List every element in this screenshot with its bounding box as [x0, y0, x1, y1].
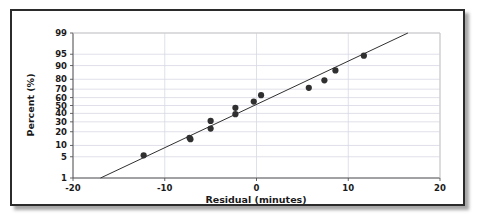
y-axis-tick-label: 95: [55, 49, 67, 59]
data-point: [251, 98, 257, 104]
normal-probability-plot: 151020304050607080909599 -20-1001020 Res…: [0, 0, 484, 224]
data-point: [332, 67, 338, 73]
data-point: [258, 92, 264, 98]
data-point: [361, 53, 367, 59]
x-axis-tick-labels: -20-1001020: [65, 183, 446, 193]
y-axis-tick-label: 70: [55, 84, 67, 94]
y-axis-tick-label: 10: [55, 140, 67, 150]
y-axis-tick-label: 20: [55, 127, 67, 137]
x-axis-tick-label: 20: [434, 183, 446, 193]
y-axis-tick-label: 80: [55, 74, 67, 84]
x-axis-tick-label: -10: [157, 183, 172, 193]
x-axis-tick-label: -20: [65, 183, 80, 193]
x-axis-tick-label: 10: [342, 183, 354, 193]
data-point: [232, 111, 238, 117]
y-axis-tick-labels: 151020304050607080909599: [55, 28, 67, 183]
data-point: [141, 152, 147, 158]
data-point: [208, 118, 214, 124]
y-axis-tick-label: 90: [55, 61, 67, 71]
data-point: [321, 77, 327, 83]
figure-root: 151020304050607080909599 -20-1001020 Res…: [0, 0, 484, 224]
data-point: [208, 125, 214, 131]
x-axis-tick-label: 0: [254, 183, 260, 193]
data-point: [306, 85, 312, 91]
data-point: [232, 105, 238, 111]
x-axis-title: Residual (minutes): [205, 194, 306, 205]
y-axis-tick-label: 5: [61, 152, 67, 162]
data-point: [186, 135, 192, 141]
y-axis-title: Percent (%): [25, 74, 36, 137]
y-axis-tick-label: 99: [55, 28, 67, 38]
y-axis-tick-label: 1: [61, 173, 67, 183]
